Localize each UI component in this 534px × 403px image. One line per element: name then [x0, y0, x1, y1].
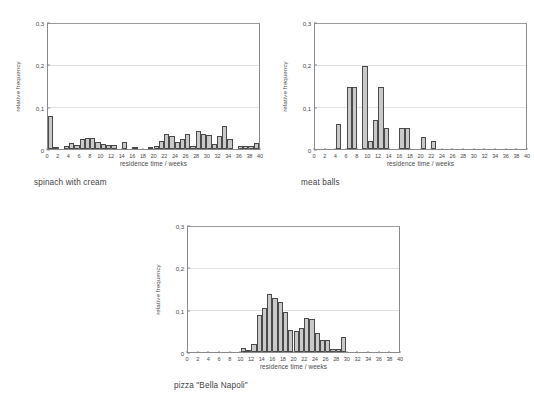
caption-spinach-with-cream: spinach with cream: [34, 178, 107, 187]
xtick-mark: [527, 148, 528, 151]
xtick-label: 0: [186, 356, 189, 362]
xtick-mark: [400, 351, 401, 354]
xtick-label: 4: [207, 356, 210, 362]
xtick-mark: [378, 351, 379, 354]
xtick-label: 16: [396, 153, 402, 159]
xtick-mark: [336, 351, 337, 354]
xtick-label: 6: [77, 153, 80, 159]
xtick-label: 14: [119, 153, 125, 159]
xtick-label: 14: [259, 356, 265, 362]
plot-frame-meat-balls: [314, 23, 527, 150]
xtick-label: 10: [237, 356, 243, 362]
yaxis-title-meat-balls: relative frequency: [281, 26, 288, 146]
histogram-bar: [254, 143, 259, 149]
xtick-mark: [505, 148, 506, 151]
histogram-bar: [336, 124, 341, 149]
xtick-mark: [324, 148, 325, 151]
xtick-label: 30: [344, 356, 350, 362]
xtick-label: 24: [439, 153, 445, 159]
xtick-mark: [47, 148, 48, 151]
histogram-bar: [132, 147, 137, 150]
xtick-mark: [304, 351, 305, 354]
xtick-mark: [240, 351, 241, 354]
xtick-mark: [293, 351, 294, 354]
xtick-label: 16: [269, 356, 275, 362]
xtick-mark: [484, 148, 485, 151]
xtick-mark: [250, 351, 251, 354]
xtick-mark: [174, 148, 175, 151]
xtick-label: 4: [334, 153, 337, 159]
xtick-mark: [249, 148, 250, 151]
ytick-label-meatballs-3: 0,3: [303, 20, 311, 27]
xtick-mark: [377, 148, 378, 151]
xaxis-title-meat-balls: residence time / weeks: [314, 160, 527, 167]
xtick-mark: [420, 148, 421, 151]
xtick-label: 36: [376, 356, 382, 362]
ytick-mark-spinach-1: [47, 107, 50, 108]
ytick-mark-pizza-1: [187, 310, 190, 311]
xtick-label: 36: [236, 153, 242, 159]
xtick-label: 8: [355, 153, 358, 159]
xtick-mark: [473, 148, 474, 151]
xtick-mark: [282, 351, 283, 354]
xtick-mark: [68, 148, 69, 151]
xtick-mark: [314, 351, 315, 354]
xtick-mark: [325, 351, 326, 354]
xtick-label: 30: [204, 153, 210, 159]
ytick-label-meatballs-1: 0,1: [303, 104, 311, 111]
xtick-label: 12: [108, 153, 114, 159]
xtick-label: 32: [481, 153, 487, 159]
histogram-bar: [405, 128, 410, 149]
xtick-mark: [217, 148, 218, 151]
chart-panel-pizza-bella-napoli: 0,3 0,2 0,1 0 02468101214161820222426283…: [140, 203, 407, 403]
plot-area-spinach: 0,3 0,2 0,1 0 02468101214161820222426283…: [47, 23, 260, 150]
xtick-label: 2: [196, 356, 199, 362]
ytick-label-spinach-0: 0: [41, 147, 44, 154]
ytick-label-pizza-2: 0,2: [176, 265, 184, 272]
xtick-label: 18: [280, 356, 286, 362]
ytick-label-pizza-0: 0: [181, 350, 184, 357]
xtick-mark: [261, 351, 262, 354]
ytick-label-spinach-3: 0,3: [36, 20, 44, 27]
xaxis-title-spinach: residence time / weeks: [47, 160, 260, 167]
xtick-mark: [238, 148, 239, 151]
xtick-label: 10: [97, 153, 103, 159]
xtick-mark: [89, 148, 90, 151]
plot-area-meat-balls: 0,3 0,2 0,1 0 02468101214161820222426283…: [314, 23, 527, 150]
xtick-label: 38: [513, 153, 519, 159]
xtick-mark: [208, 351, 209, 354]
xtick-label: 18: [140, 153, 146, 159]
histogram-bar: [431, 141, 436, 149]
xtick-label: 0: [313, 153, 316, 159]
xtick-mark: [388, 148, 389, 151]
ytick-mark-spinach-3: [47, 23, 50, 24]
ytick-label-meatballs-2: 0,2: [303, 62, 311, 69]
histogram-bar: [48, 116, 53, 149]
xtick-label: 2: [56, 153, 59, 159]
ytick-mark-meatballs-2: [314, 65, 317, 66]
yaxis-title-pizza: relative frequency: [154, 229, 161, 349]
xtick-label: 40: [524, 153, 530, 159]
xtick-mark: [441, 148, 442, 151]
xtick-mark: [367, 148, 368, 151]
xtick-label: 20: [151, 153, 157, 159]
xtick-mark: [110, 148, 111, 151]
xtick-label: 0: [46, 153, 49, 159]
xtick-mark: [345, 148, 346, 151]
xtick-mark: [431, 148, 432, 151]
xtick-mark: [368, 351, 369, 354]
xtick-mark: [260, 148, 261, 151]
ytick-label-spinach-2: 0,2: [36, 62, 44, 69]
xtick-label: 28: [333, 356, 339, 362]
xtick-label: 26: [323, 356, 329, 362]
histogram-bar: [352, 87, 357, 150]
xtick-label: 24: [312, 356, 318, 362]
xtick-label: 6: [217, 356, 220, 362]
xtick-label: 4: [67, 153, 70, 159]
xtick-label: 20: [418, 153, 424, 159]
xtick-mark: [218, 351, 219, 354]
bar-series-meat-balls: [315, 24, 526, 149]
ytick-mark-pizza-2: [187, 268, 190, 269]
xtick-label: 32: [354, 356, 360, 362]
ytick-mark-spinach-2: [47, 65, 50, 66]
